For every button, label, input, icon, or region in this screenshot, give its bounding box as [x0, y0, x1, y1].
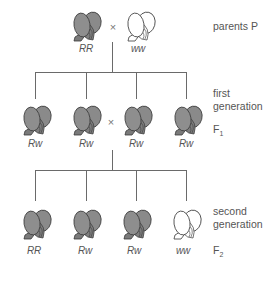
genotype-label: Rw: [15, 138, 55, 149]
genotype-label: Rw: [116, 138, 156, 149]
genotype-label: ww: [118, 43, 158, 54]
genotype-label: RR: [66, 43, 106, 54]
genotype-label: Rw: [65, 245, 105, 256]
flower-red-icon: [17, 104, 55, 138]
connector-line: [186, 72, 187, 99]
first-generation-label: first generation: [213, 87, 263, 113]
cross-symbol: ×: [108, 116, 114, 128]
genotype-label: Rw: [66, 138, 106, 149]
genotype-label: RR: [14, 245, 54, 256]
connector-line: [136, 170, 137, 201]
genotype-label: Rw: [114, 245, 154, 256]
parents-label: parents P: [213, 20, 258, 33]
connector-line: [35, 72, 187, 73]
connector-line: [186, 170, 187, 201]
flower-red-icon: [17, 208, 55, 242]
connector-line: [112, 150, 113, 170]
f1-symbol: F1: [213, 123, 223, 140]
f2-symbol: F2: [213, 244, 223, 261]
connector-line: [35, 170, 187, 171]
connector-line: [86, 170, 87, 201]
flower-red-icon: [118, 104, 156, 138]
connector-line: [112, 42, 113, 73]
flower-red-icon: [117, 208, 155, 242]
flower-red-icon: [168, 104, 206, 138]
flower-white-icon: [121, 10, 159, 44]
flower-red-icon: [67, 208, 105, 242]
connector-line: [35, 170, 36, 201]
genotype-label: ww: [163, 245, 203, 256]
connector-line: [136, 72, 137, 99]
second-generation-label: second generation: [213, 205, 263, 231]
flower-white-icon: [167, 208, 205, 242]
genotype-label: Rw: [166, 138, 206, 149]
connector-line: [35, 72, 36, 99]
connector-line: [86, 72, 87, 99]
flower-red-icon: [67, 104, 105, 138]
cross-symbol: ×: [110, 21, 116, 33]
flower-red-icon: [67, 10, 105, 44]
